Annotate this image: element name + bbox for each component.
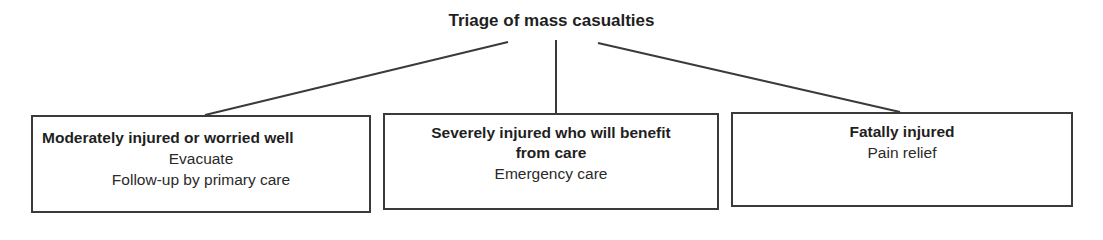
connector-right [598,43,900,112]
category-heading: Moderately injured or worried well [33,128,369,148]
category-heading: Severely injured who will benefit from c… [385,123,717,163]
connector-left [205,42,508,115]
category-box-moderately-injured: Moderately injured or worried well Evacu… [31,115,371,213]
category-box-fatally-injured: Fatally injured Pain relief [731,112,1073,207]
category-action: Evacuate [33,148,369,169]
category-action: Emergency care [385,163,717,184]
category-action: Follow-up by primary care [33,169,369,190]
category-box-severely-injured: Severely injured who will benefit from c… [383,113,719,210]
category-heading: Fatally injured [733,122,1071,142]
category-action: Pain relief [733,142,1071,163]
